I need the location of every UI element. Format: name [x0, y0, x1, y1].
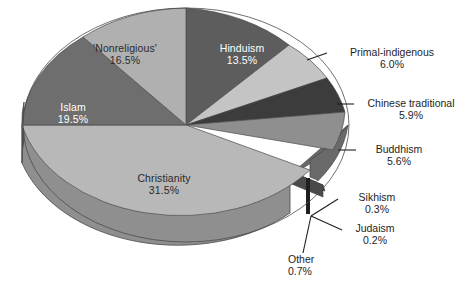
- callout-sikhism: Sikhism 0.3%: [342, 191, 412, 216]
- callout-chinese-traditional-name: Chinese traditional: [358, 97, 464, 109]
- leader-line-other: [303, 216, 311, 253]
- slice-label-christianity-value: 31.5%: [104, 184, 224, 196]
- callout-buddhism: Buddhism 5.6%: [360, 143, 438, 168]
- leader-line-primal: [307, 53, 327, 60]
- slice-label-nonreligious: 'Nonreligious' 16.5%: [60, 42, 190, 67]
- callout-buddhism-name: Buddhism: [360, 143, 438, 155]
- slice-label-hinduism: Hinduism 13.5%: [190, 42, 294, 67]
- pie-chart: 'Nonreligious' 16.5% Hinduism 13.5% Isla…: [0, 0, 465, 293]
- callout-judaism-name: Judaism: [340, 222, 410, 234]
- slice-label-christianity-name: Christianity: [104, 172, 224, 184]
- slice-label-islam-value: 19.5%: [28, 113, 118, 125]
- callout-other-name: Other: [288, 253, 358, 265]
- callout-other-value: 0.7%: [288, 265, 358, 277]
- callout-primal-indigenous-name: Primal-indigenous: [330, 46, 454, 58]
- callout-sikhism-name: Sikhism: [342, 191, 412, 203]
- slice-label-hinduism-value: 13.5%: [190, 54, 294, 66]
- callout-judaism: Judaism 0.2%: [340, 222, 410, 247]
- slice-minor-edge: [306, 178, 310, 214]
- callout-chinese-traditional: Chinese traditional 5.9%: [358, 97, 464, 122]
- slice-label-islam-name: Islam: [28, 101, 118, 113]
- figure-caption: [4, 282, 304, 293]
- callout-buddhism-value: 5.6%: [360, 155, 438, 167]
- callout-sikhism-value: 0.3%: [342, 203, 412, 215]
- leader-line-sikhism: [311, 199, 338, 216]
- callout-judaism-value: 0.2%: [340, 234, 410, 246]
- callout-chinese-traditional-value: 5.9%: [358, 109, 464, 121]
- callout-other: Other 0.7%: [288, 253, 358, 278]
- slice-label-islam: Islam 19.5%: [28, 101, 118, 126]
- callout-primal-indigenous: Primal-indigenous 6.0%: [330, 46, 454, 71]
- slice-label-hinduism-name: Hinduism: [190, 42, 294, 54]
- slice-label-nonreligious-name: 'Nonreligious': [60, 42, 190, 54]
- slice-label-christianity: Christianity 31.5%: [104, 172, 224, 197]
- callout-primal-indigenous-value: 6.0%: [330, 58, 454, 70]
- leader-line-judaism: [311, 216, 342, 230]
- slice-label-nonreligious-value: 16.5%: [60, 54, 190, 66]
